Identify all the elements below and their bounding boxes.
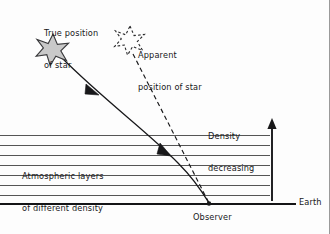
density-arrow-icon bbox=[267, 118, 276, 201]
label-earth: Earth bbox=[299, 197, 322, 208]
label-apparent-position-line1: Apparent bbox=[138, 50, 202, 61]
label-apparent-position-line2: position of star bbox=[138, 82, 202, 93]
observer-marker-dot bbox=[207, 201, 211, 205]
atmospheric-refraction-diagram: True position of star Apparent position … bbox=[0, 0, 330, 234]
label-true-position-line1: True position bbox=[44, 28, 98, 39]
label-density-decreasing: Density decreasing bbox=[208, 110, 254, 194]
label-observer: Observer bbox=[193, 212, 232, 223]
label-true-position-line2: of star bbox=[44, 60, 98, 71]
label-true-position: True position of star bbox=[44, 7, 98, 91]
label-density-decreasing-line2: decreasing bbox=[208, 163, 254, 174]
label-atmospheric-layers-line1: Atmospheric layers bbox=[22, 171, 104, 182]
label-atmospheric-layers-line2: of different density bbox=[22, 203, 104, 214]
label-apparent-position: Apparent position of star bbox=[138, 29, 202, 113]
label-atmospheric-layers: Atmospheric layers of different density bbox=[22, 150, 104, 234]
label-density-decreasing-line1: Density bbox=[208, 131, 254, 142]
